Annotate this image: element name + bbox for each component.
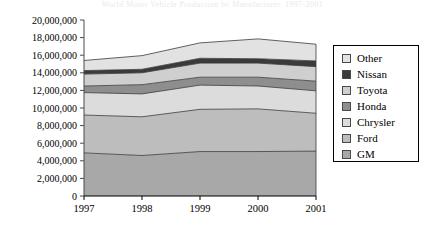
legend-item-honda[interactable]: Honda bbox=[342, 99, 418, 114]
legend-swatch-honda bbox=[342, 102, 351, 111]
legend-swatch-ford bbox=[342, 134, 351, 143]
legend-label-ford: Ford bbox=[357, 133, 378, 144]
y-tick-label: 10,000,000 bbox=[32, 103, 77, 114]
legend-item-other[interactable]: Other bbox=[342, 51, 418, 66]
legend-swatch-nissan bbox=[342, 70, 351, 79]
legend-item-nissan[interactable]: Nissan bbox=[342, 67, 418, 82]
y-tick-label: 14,000,000 bbox=[32, 67, 77, 78]
x-tick-label: 1997 bbox=[74, 203, 95, 214]
legend-swatch-gm bbox=[342, 150, 351, 159]
y-tick-label: 12,000,000 bbox=[32, 85, 77, 96]
legend-item-toyota[interactable]: Toyota bbox=[342, 83, 418, 98]
x-tick-label: 1999 bbox=[190, 203, 211, 214]
chart-legend: Other Nissan Toyota Honda Chrysler Ford … bbox=[333, 45, 419, 162]
y-tick-label: 2,000,000 bbox=[37, 173, 77, 184]
legend-swatch-toyota bbox=[342, 86, 351, 95]
area-band-gm bbox=[84, 151, 316, 196]
y-tick-label: 4,000,000 bbox=[37, 155, 77, 166]
legend-label-honda: Honda bbox=[357, 101, 386, 112]
legend-swatch-chrysler bbox=[342, 118, 351, 127]
legend-item-gm[interactable]: GM bbox=[342, 147, 418, 162]
stacked-area-chart: World Motor Vehicle Production by Manufa… bbox=[0, 0, 425, 230]
chart-title-clipped: World Motor Vehicle Production by Manufa… bbox=[0, 0, 425, 7]
x-tick-label: 2000 bbox=[248, 203, 269, 214]
plot-svg: 02,000,0004,000,0006,000,0008,000,00010,… bbox=[0, 10, 340, 220]
x-tick-label: 2001 bbox=[306, 203, 327, 214]
legend-item-ford[interactable]: Ford bbox=[342, 131, 418, 146]
y-tick-label: 8,000,000 bbox=[37, 120, 77, 131]
y-tick-label: 0 bbox=[72, 191, 77, 202]
legend-label-toyota: Toyota bbox=[357, 85, 387, 96]
legend-item-chrysler[interactable]: Chrysler bbox=[342, 115, 418, 130]
plot-area: 02,000,0004,000,0006,000,0008,000,00010,… bbox=[0, 10, 340, 220]
y-tick-label: 20,000,000 bbox=[32, 15, 77, 26]
y-tick-label: 6,000,000 bbox=[37, 138, 77, 149]
legend-label-other: Other bbox=[357, 53, 382, 64]
y-tick-label: 16,000,000 bbox=[32, 50, 77, 61]
legend-label-nissan: Nissan bbox=[357, 69, 387, 80]
legend-label-gm: GM bbox=[357, 149, 375, 160]
y-tick-label: 18,000,000 bbox=[32, 32, 77, 43]
x-tick-label: 1998 bbox=[132, 203, 153, 214]
legend-swatch-other bbox=[342, 54, 351, 63]
legend-label-chrysler: Chrysler bbox=[357, 117, 395, 128]
